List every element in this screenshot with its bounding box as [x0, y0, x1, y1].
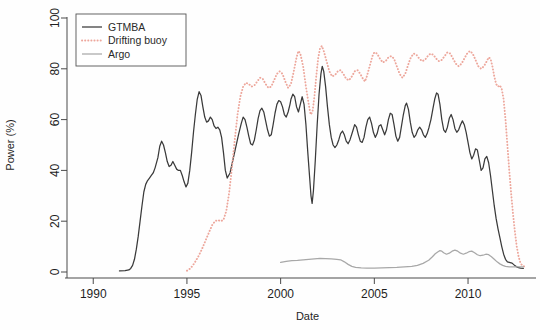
power-time-series-chart: 19901995200020052010 020406080100 Date P… [0, 0, 540, 330]
y-tick-label: 20 [48, 214, 62, 228]
x-axis-title: Date [296, 310, 319, 322]
y-tick-label: 60 [48, 113, 62, 127]
x-tick-label: 1995 [174, 287, 201, 301]
y-tick-label: 100 [48, 8, 62, 28]
x-tick-label: 2000 [267, 287, 294, 301]
y-tick-label: 80 [48, 62, 62, 76]
x-tick-label: 1990 [80, 287, 107, 301]
x-tick-label: 2005 [361, 287, 388, 301]
legend-label-gtmba: GTMBA [108, 21, 145, 33]
y-axis-title: Power (%) [4, 119, 16, 170]
y-tick-label: 40 [48, 163, 62, 177]
chart-legend: GTMBADrifting buoyArgo [76, 14, 186, 66]
y-tick-label: 0 [48, 268, 62, 275]
legend-label-drifting-buoy: Drifting buoy [108, 34, 168, 46]
legend-label-argo: Argo [108, 48, 130, 60]
chart-figure: 19901995200020052010 020406080100 Date P… [0, 0, 540, 330]
x-tick-label: 2010 [455, 287, 482, 301]
